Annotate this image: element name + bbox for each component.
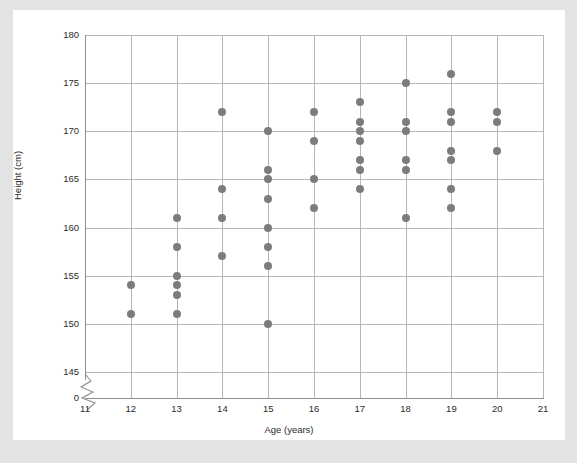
data-point <box>173 291 181 299</box>
data-point <box>173 214 181 222</box>
data-point <box>402 79 410 87</box>
data-point <box>447 70 455 78</box>
x-tick-label: 14 <box>210 403 234 414</box>
x-tick-label: 17 <box>348 403 372 414</box>
y-tick-label-zero: 0 <box>53 392 79 403</box>
data-point <box>447 147 455 155</box>
gridline-vertical <box>314 35 315 398</box>
scatter-plot: Height (cm) Age (years) 1451501551601651… <box>13 10 565 440</box>
data-point <box>264 195 272 203</box>
y-tick-label: 175 <box>53 77 79 88</box>
gridline-vertical <box>451 35 452 398</box>
y-tick-label: 145 <box>53 366 79 377</box>
data-point <box>173 281 181 289</box>
data-point <box>402 127 410 135</box>
x-tick-label: 18 <box>394 403 418 414</box>
data-point <box>402 156 410 164</box>
data-point <box>264 243 272 251</box>
data-point <box>310 137 318 145</box>
y-tick-label: 170 <box>53 125 79 136</box>
data-point <box>264 166 272 174</box>
gridline-vertical <box>131 35 132 398</box>
gridline-vertical <box>268 35 269 398</box>
data-point <box>173 272 181 280</box>
data-point <box>310 108 318 116</box>
data-point <box>356 137 364 145</box>
y-axis-title: Height (cm) <box>12 151 23 200</box>
x-tick-label: 16 <box>302 403 326 414</box>
y-tick-label: 155 <box>53 270 79 281</box>
data-point <box>402 118 410 126</box>
data-point <box>493 118 501 126</box>
x-tick-label: 11 <box>73 403 97 414</box>
y-axis-line <box>85 35 86 380</box>
y-tick-label: 165 <box>53 173 79 184</box>
x-tick-label: 20 <box>485 403 509 414</box>
data-point <box>173 310 181 318</box>
gridline-vertical <box>497 35 498 398</box>
data-point <box>173 243 181 251</box>
chart-card: Height (cm) Age (years) 1451501551601651… <box>13 10 565 440</box>
data-point <box>493 147 501 155</box>
y-tick-label: 160 <box>53 222 79 233</box>
data-point <box>264 320 272 328</box>
data-point <box>356 185 364 193</box>
data-point <box>264 224 272 232</box>
x-tick-label: 15 <box>256 403 280 414</box>
y-tick-label: 180 <box>53 29 79 40</box>
x-axis-line <box>85 398 544 399</box>
x-axis-title: Age (years) <box>13 424 565 435</box>
data-point <box>356 118 364 126</box>
data-point <box>356 156 364 164</box>
data-point <box>402 214 410 222</box>
gridline-vertical <box>360 35 361 398</box>
x-tick-label: 12 <box>119 403 143 414</box>
gridline-vertical <box>543 35 544 398</box>
data-point <box>402 166 410 174</box>
data-point <box>127 310 135 318</box>
data-point <box>356 166 364 174</box>
x-tick-label: 13 <box>165 403 189 414</box>
x-tick-label: 19 <box>439 403 463 414</box>
y-tick-label: 150 <box>53 318 79 329</box>
x-tick-label: 21 <box>531 403 555 414</box>
